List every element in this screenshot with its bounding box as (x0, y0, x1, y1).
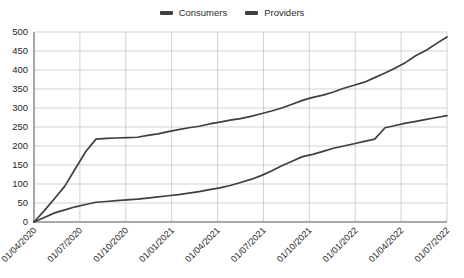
y-axis-tick-label: 500 (12, 26, 28, 37)
x-axis-tick-label: 01/04/2022 (367, 225, 406, 264)
y-axis-tick-label: 250 (12, 121, 28, 132)
y-axis-tick-label: 50 (17, 197, 28, 208)
y-axis-tick-label: 0 (23, 216, 28, 227)
x-axis-tick-label: 01/10/2021 (275, 225, 314, 264)
x-axis-tick-label: 01/07/2022 (412, 225, 451, 264)
x-axis-tick-label: 01/07/2021 (229, 225, 268, 264)
series-line-providers (34, 116, 447, 222)
x-axis-tick-label: 01/01/2021 (137, 225, 176, 264)
x-axis-tick-label: 01/04/2020 (0, 225, 38, 264)
y-axis-tick-label: 400 (12, 64, 28, 75)
x-axis-tick-label: 01/04/2021 (183, 225, 222, 264)
x-axis-tick-label: 01/10/2020 (91, 225, 130, 264)
y-axis-tick-label: 300 (12, 102, 28, 113)
y-axis-tick-label: 350 (12, 83, 28, 94)
x-axis-tick-label: 01/01/2022 (321, 225, 360, 264)
x-axis-tick-label: 01/07/2020 (45, 225, 84, 264)
y-axis-tick-label: 200 (12, 140, 28, 151)
y-axis-tick-label: 150 (12, 159, 28, 170)
y-axis-tick-label: 100 (12, 178, 28, 189)
plot-area: 05010015020025030035040045050001/04/2020… (0, 0, 464, 278)
y-axis-tick-label: 450 (12, 45, 28, 56)
series-line-consumers (34, 37, 447, 222)
line-chart: Consumers Providers 05010015020025030035… (0, 0, 464, 278)
